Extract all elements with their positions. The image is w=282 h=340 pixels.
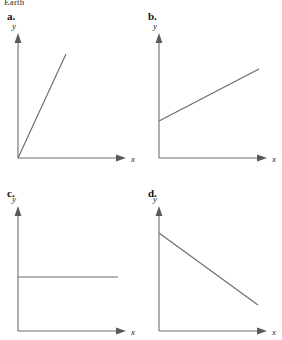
graph-svg-d: y x (141, 170, 282, 340)
x-axis-arrowhead-a (116, 155, 126, 162)
y-axis-arrowhead-a (15, 33, 22, 43)
data-line-b (159, 69, 259, 121)
graph-svg-a: y x (0, 0, 141, 170)
graph-panel-b: b. y x (141, 0, 282, 170)
y-axis-label-a: y (11, 21, 16, 31)
graph-svg-b: y x (141, 0, 282, 170)
x-axis-arrowhead-b (257, 155, 267, 162)
x-axis-label-b: x (271, 154, 276, 164)
x-axis-label-a: x (130, 154, 135, 164)
x-axis-label-c: x (130, 327, 135, 337)
graph-panel-c: c. y x (0, 170, 141, 340)
y-axis-label-b: y (152, 21, 157, 31)
graph-panel-d: d. y x (141, 170, 282, 340)
x-axis-label-d: x (271, 327, 276, 337)
y-axis-arrowhead-d (156, 206, 163, 216)
y-axis-label-c: y (11, 194, 16, 204)
y-axis-arrowhead-c (15, 206, 22, 216)
x-axis-arrowhead-d (257, 328, 267, 335)
graph-panel-a: a. y x (0, 0, 141, 170)
y-axis-label-d: y (152, 194, 157, 204)
graph-svg-c: y x (0, 170, 141, 340)
data-line-a (18, 54, 66, 158)
data-line-d (159, 233, 258, 305)
x-axis-arrowhead-c (116, 328, 126, 335)
y-axis-arrowhead-b (156, 33, 163, 43)
